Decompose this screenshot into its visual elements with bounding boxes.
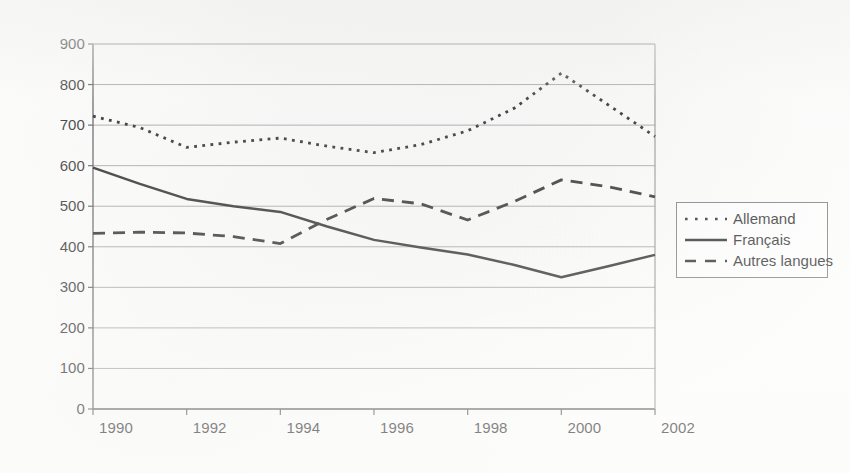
- y-axis-tick-label: 400: [25, 238, 85, 255]
- series-line-fran-ais: [93, 168, 655, 278]
- y-axis-tick-label: 300: [25, 278, 85, 295]
- solid-line-swatch: [683, 234, 729, 246]
- chart-axes: [93, 44, 655, 409]
- legend-item-francais: Français: [683, 229, 821, 250]
- y-axis-tick-label: 600: [25, 157, 85, 174]
- dotted-line-swatch: [683, 213, 729, 225]
- x-axis-tick-label: 1990: [81, 419, 151, 436]
- y-axis-tick-label: 800: [25, 76, 85, 93]
- y-axis-tick-label: 700: [25, 116, 85, 133]
- series-line-autres-langues: [93, 180, 655, 244]
- y-axis-tick-label: 100: [25, 359, 85, 376]
- chart-legend: Allemand Français Autres langues: [676, 202, 828, 278]
- x-axis-tick-label: 1998: [456, 419, 526, 436]
- dashed-line-swatch: [683, 255, 729, 267]
- legend-label-francais: Français: [733, 232, 791, 247]
- series-line-allemand: [93, 73, 655, 152]
- x-axis-tick-label: 2000: [549, 419, 619, 436]
- y-axis-tick-label: 0: [25, 400, 85, 417]
- legend-label-autres-langues: Autres langues: [733, 253, 833, 268]
- y-axis-tick-label: 500: [25, 197, 85, 214]
- x-axis-ticks: [93, 409, 655, 415]
- legend-item-allemand: Allemand: [683, 208, 821, 229]
- legend-item-autres-langues: Autres langues: [683, 250, 821, 271]
- x-axis-tick-label: 2002: [643, 419, 713, 436]
- x-axis-tick-label: 1996: [362, 419, 432, 436]
- y-axis-ticks: [88, 44, 93, 409]
- y-axis-tick-label: 200: [25, 319, 85, 336]
- x-axis-tick-label: 1994: [268, 419, 338, 436]
- legend-label-allemand: Allemand: [733, 211, 796, 226]
- x-axis-tick-label: 1992: [175, 419, 245, 436]
- y-gridlines: [93, 44, 655, 409]
- line-chart-figure: 9008007006005004003002001000 19901992199…: [0, 0, 850, 473]
- y-axis-tick-label: 900: [25, 35, 85, 52]
